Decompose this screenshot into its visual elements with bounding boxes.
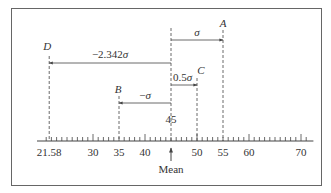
mean-label: Mean <box>158 163 184 175</box>
point-a-offset-label: σ <box>194 26 200 38</box>
point-b-offset-label: −σ <box>139 89 151 101</box>
tick-label-70: 70 <box>296 146 308 158</box>
z-score-number-line-diagram: 21.583035405055607045MeanAσC0.5σB−σD−2.3… <box>0 0 331 193</box>
mean-value-label: 45 <box>166 113 178 125</box>
point-b-label: B <box>115 83 122 95</box>
tick-label-40: 40 <box>140 146 152 158</box>
tick-label-35: 35 <box>114 146 126 158</box>
point-c-offset-label: 0.5σ <box>173 71 193 83</box>
tick-label-50: 50 <box>192 146 204 158</box>
tick-label-21-58: 21.58 <box>37 146 62 158</box>
point-a-label: A <box>219 17 227 29</box>
point-d-label: D <box>42 40 51 52</box>
tick-label-30: 30 <box>88 146 100 158</box>
tick-label-60: 60 <box>244 146 256 158</box>
diagram-frame <box>12 9 322 186</box>
point-d-offset-label: −2.342σ <box>92 48 129 60</box>
point-c-label: C <box>197 64 205 76</box>
tick-label-55: 55 <box>218 146 230 158</box>
